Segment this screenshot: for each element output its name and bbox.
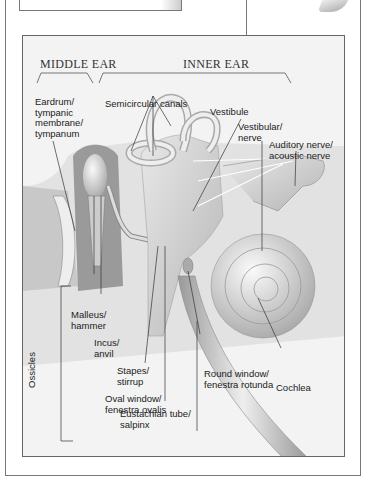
label-semicircular-canals: Semicircular canals	[105, 99, 187, 110]
label-eardrum: Eardrum/ tympanic membrane/ tympanum	[35, 97, 83, 139]
label-eustachian-tube: Eustachian tube/ salpinx	[120, 409, 191, 430]
label-vestibule: Vestibule	[210, 107, 249, 118]
label-cochlea: Cochlea	[276, 383, 311, 394]
label-incus: Incus/ anvil	[94, 338, 119, 359]
shade	[161, 0, 181, 10]
label-stapes: Stapes/ stirrup	[117, 366, 149, 387]
label-ossicles: Ossicles	[27, 352, 38, 388]
label-malleus: Malleus/ hammer	[71, 310, 106, 331]
middle-ear-title: MIDDLE EAR	[40, 57, 117, 72]
label-round-window: Round window/ fenestra rotunda	[204, 369, 273, 390]
inner-ear-title: INNER EAR	[183, 57, 249, 72]
divider-line	[246, 0, 247, 35]
ear-diagram: MIDDLE EAR INNER EAR Eardrum/ tympanic m…	[22, 35, 345, 457]
top-caption-box	[19, 0, 182, 11]
label-auditory-nerve: Auditory nerve/ acoustic nerve	[269, 140, 333, 161]
